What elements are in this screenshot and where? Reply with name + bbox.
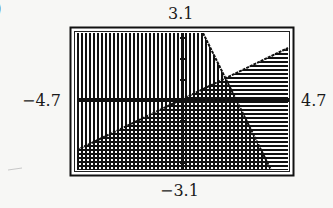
smudge-mark [8,168,22,170]
calculator-graph-screen [0,0,333,208]
y-axis [182,33,184,170]
